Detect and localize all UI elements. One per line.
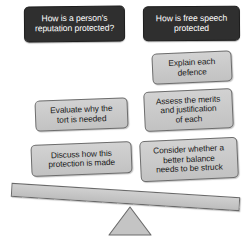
right-task-box-1[interactable]: Explain each defence — [151, 50, 232, 85]
fulcrum-triangle-shape — [109, 207, 151, 235]
right-task-box-3[interactable]: Consider whether a better balance needs … — [139, 137, 239, 182]
right-task-box-2[interactable]: Assess the merits and justification of e… — [143, 88, 234, 132]
left-header-box[interactable]: How is a person's reputation protected? — [24, 6, 125, 43]
right-header-box[interactable]: How is free speech protected — [143, 6, 240, 42]
left-task-box-2[interactable]: Discuss how this protection is made — [30, 141, 132, 177]
left-task-box-1[interactable]: Evaluate why the tort is needed — [34, 97, 128, 132]
fulcrum-triangle — [105, 204, 155, 238]
diagram-canvas: How is a person's reputation protected? … — [0, 0, 250, 240]
